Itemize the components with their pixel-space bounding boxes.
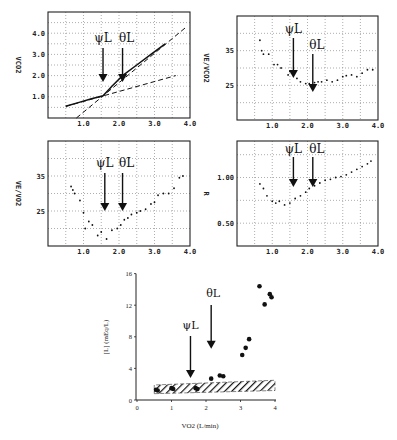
- data-point: [240, 353, 245, 358]
- chart-panel-p3: 1.02.03.04.02535VE/VO2ψLθL: [14, 141, 196, 256]
- data-point: [305, 83, 307, 85]
- data-point: [257, 284, 262, 289]
- data-point: [127, 217, 129, 219]
- data-point: [243, 346, 248, 351]
- y-tick-label: 12: [126, 302, 133, 309]
- x-tick-label: 2.0: [113, 248, 126, 256]
- data-point: [72, 189, 74, 191]
- y-tick-label: 16: [126, 270, 133, 277]
- data-point: [123, 219, 125, 221]
- data-point: [162, 193, 164, 195]
- y-tick-label: 0.50: [217, 220, 234, 228]
- data-point: [351, 74, 353, 76]
- arrow-down-icon: [308, 179, 317, 187]
- data-point: [337, 79, 339, 81]
- data-point: [287, 74, 289, 76]
- data-point: [275, 202, 277, 204]
- data-point: [74, 193, 76, 195]
- data-point: [294, 198, 296, 200]
- x-tick-label: 3.0: [336, 248, 349, 256]
- data-point: [370, 160, 372, 162]
- x-tick-label: 1.0: [77, 248, 90, 256]
- data-point: [262, 302, 267, 307]
- x-tick-label: 3.0: [148, 248, 161, 256]
- arrow-down-icon: [100, 203, 109, 211]
- x-tick-label: 3.0: [148, 120, 161, 128]
- y-tick-label: 35: [226, 47, 234, 55]
- data-point: [317, 81, 319, 83]
- arrow-down-icon: [118, 203, 127, 211]
- data-point: [182, 175, 184, 177]
- data-point: [289, 202, 291, 204]
- y-axis-label: VE/VO2: [14, 181, 22, 206]
- y-tick-label: 1.0: [32, 93, 45, 101]
- x-tick-label: 2: [204, 404, 207, 411]
- x-tick-label: 3: [239, 404, 242, 411]
- data-point: [259, 183, 261, 185]
- data-point: [326, 79, 328, 81]
- y-tick-label: 4.0: [32, 30, 45, 38]
- chart-panel-p2: 1.02.03.04.02535VE/VCO2ψLθL: [202, 16, 384, 130]
- data-point: [330, 178, 332, 180]
- data-point: [209, 376, 214, 381]
- arrow-down-icon: [99, 74, 108, 82]
- data-point: [221, 374, 226, 379]
- data-point: [356, 168, 358, 170]
- arrow-down-icon: [186, 370, 195, 378]
- data-point: [319, 182, 321, 184]
- y-tick-label: 0: [129, 397, 132, 404]
- series-line: [66, 76, 176, 107]
- annotation-label: θL: [119, 156, 134, 170]
- data-point: [305, 191, 307, 193]
- data-point: [131, 214, 133, 216]
- data-point: [106, 238, 108, 240]
- data-point: [261, 50, 263, 52]
- data-point: [157, 194, 159, 196]
- data-point: [150, 203, 152, 205]
- data-point: [345, 174, 347, 176]
- x-tick-label: 4.0: [372, 248, 385, 256]
- data-point: [340, 176, 342, 178]
- data-point: [79, 200, 81, 202]
- data-point: [314, 82, 316, 84]
- data-point: [100, 231, 102, 233]
- x-tick-label: 4.0: [372, 122, 385, 130]
- data-point: [324, 179, 326, 181]
- data-point: [342, 76, 344, 78]
- x-tick-label: 3.0: [336, 122, 349, 130]
- data-point: [263, 53, 265, 55]
- data-point: [195, 387, 200, 392]
- data-point: [168, 193, 170, 195]
- data-point: [273, 64, 275, 66]
- x-tick-label: 0: [135, 404, 138, 411]
- y-axis-label: VCO2: [14, 57, 22, 74]
- data-point: [284, 204, 286, 206]
- y-tick-label: 4: [129, 365, 133, 372]
- x-tick-label: 1.0: [266, 248, 279, 256]
- data-point: [259, 39, 261, 41]
- data-point: [269, 295, 274, 300]
- x-tick-label: 1: [170, 404, 173, 411]
- annotation-label: ψL: [183, 319, 200, 332]
- data-point: [308, 188, 310, 190]
- x-tick-label: 1.0: [77, 120, 90, 128]
- data-point: [266, 195, 268, 197]
- y-tick-label: 3.0: [32, 51, 45, 59]
- data-point: [296, 78, 298, 80]
- y-axis-label: [L] (mEq/L): [102, 319, 110, 354]
- data-point: [116, 228, 118, 230]
- data-point: [351, 171, 353, 173]
- data-point: [171, 387, 176, 392]
- annotation-label: ψL: [285, 22, 302, 36]
- data-point: [178, 177, 180, 179]
- data-point: [83, 212, 85, 214]
- annotation-label: ψL: [285, 142, 302, 156]
- arrow-down-icon: [289, 179, 298, 187]
- chart-panel-lactate: 048121601234VO2 (L/min)[L] (mEq/L)ψLθL: [102, 270, 277, 430]
- arrow-down-icon: [207, 341, 216, 349]
- figure-canvas: 1.02.03.04.01.02.03.04.0VCO2ψLθL1.02.03.…: [0, 0, 397, 440]
- data-point: [361, 166, 363, 168]
- x-tick-label: 1.0: [266, 122, 279, 130]
- data-point: [155, 388, 160, 393]
- data-point: [277, 64, 279, 66]
